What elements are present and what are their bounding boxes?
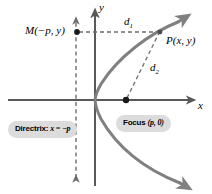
parabola-figure: y x M(−p, y) P(x, y) d1 d2 Directrix: x … [0,0,212,194]
directrix-callout-prefix: Directrix: [15,124,50,133]
x-axis-label: x [198,100,203,111]
distance-d2-subscript: 2 [156,68,159,75]
point-m-dot [74,29,80,35]
distance-d1-subscript: 1 [130,22,133,29]
directrix-callout: Directrix: x = −p [8,121,77,138]
focus-callout: Focus (p, 0) [116,115,171,132]
focus-callout-prefix: Focus [123,118,148,127]
point-m-label: M(−p, y) [25,25,65,36]
distance-d2-label: d2 [150,62,159,76]
point-p-dot [158,30,163,35]
focus-dot [123,97,129,103]
distance-d1-label: d1 [124,16,133,30]
directrix-callout-equation: x = −p [50,124,70,133]
point-p-label: P(x, y) [166,35,195,46]
y-axis-label: y [99,2,104,13]
focus-callout-coords: (p, 0) [148,118,164,127]
